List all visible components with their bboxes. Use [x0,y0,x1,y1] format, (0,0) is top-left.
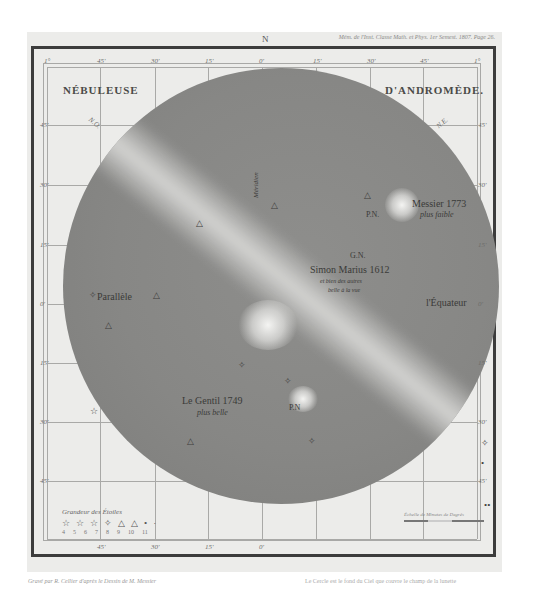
right-tick: 45' [478,121,487,129]
legend-symbol-icon: ☆ [62,518,70,528]
legend-title: Grandeur des Étoiles [62,508,156,516]
pn-upper-label: P.N. [366,210,379,219]
title-left: NÉBULEUSE [63,84,139,96]
bottom-tick: 15' [205,543,214,551]
star-icon: • [481,458,484,468]
right-tick: 45' [478,477,487,485]
scale-graduation [404,520,484,522]
left-tick: 30' [40,181,49,189]
star-icon: ✧ [284,376,292,386]
legend-symbol-icon: ☆ [76,518,84,528]
top-tick: 45' [97,57,106,65]
legend-symbol-icon: ✧ [104,518,112,528]
pn-lower-label: P.N [289,403,300,412]
left-tick: 30' [40,418,49,426]
grid-line-h [47,539,477,540]
bottom-tick: 45' [97,543,106,551]
star-icon: △ [196,218,203,228]
legend-magnitude: 7 [95,529,98,535]
top-tick: 30' [367,57,376,65]
right-tick: 0' [478,300,483,308]
grid-line-v [47,67,48,539]
messier-sub: plus faible [420,210,454,219]
star-icon: △ [271,200,278,210]
legend-magnitude: 6 [84,529,87,535]
header-note: Mém. de l'Inst. Classe Math. et Phys. 1e… [290,34,495,40]
simon-marius-label: Simon Marius 1612 [310,264,389,275]
legend-magnitude: 4 [62,529,65,535]
parallel-label: Parallèle [97,291,132,302]
top-tick: 15' [313,57,322,65]
circle-caption: Le Cercle est le fond du Ciel que couvre… [305,578,456,584]
left-tick: 15' [40,359,49,367]
title-right: D'ANDROMÈDE. [385,84,484,96]
bottom-tick: 0' [259,543,264,551]
left-tick: 45' [40,121,49,129]
messier-label: Messier 1773 [412,198,466,209]
star-icon: ☆ [90,406,98,416]
top-tick: 1° [44,57,50,65]
telescope-field-circle [63,68,499,504]
star-icon: △ [105,320,112,330]
star-icon: •• [484,500,490,510]
legend-magnitude: 10 [128,529,134,535]
legend-magnitude: 8 [106,529,109,535]
legend-symbol-icon: △ [118,518,125,528]
left-tick: 0' [40,300,45,308]
bottom-tick: 30' [151,543,160,551]
top-tick: 45' [420,57,429,65]
top-tick: 30' [151,57,160,65]
star-icon: ✧ [89,290,97,300]
engraver-credit: Gravé par R. Cellier d'après le Dessin d… [28,578,156,584]
left-tick: 15' [40,241,49,249]
legend-symbol-icon: • [144,518,147,528]
star-icon: ✧ [481,438,489,448]
nebula-core-glow [238,300,298,350]
legend-symbol-icon: ☆ [90,518,98,528]
legend-symbols: ☆ ☆ ☆ ✧ △ △ • · [62,518,156,528]
magnitude-legend: Grandeur des Étoiles ☆ ☆ ☆ ✧ △ △ • · 4 5… [62,508,156,535]
equator-label: l'Équateur [426,297,467,308]
legend-magnitude: 11 [142,529,148,535]
gn-label: G.N. [350,251,366,260]
star-icon: △ [364,190,371,200]
simon-sub1: et bien des autres [320,278,362,284]
north-marker: N [262,34,269,44]
legend-symbol-icon: △ [131,518,138,528]
top-tick: 15' [205,57,214,65]
right-tick: 15' [478,241,487,249]
star-icon: △ [153,290,160,300]
scale-bar: Échelle de Minutes de Degrés [404,512,484,522]
right-tick: 30' [478,181,487,189]
star-icon: ✧ [308,436,316,446]
top-tick: 0' [259,57,264,65]
legend-magnitude: 9 [117,529,120,535]
right-tick: 15' [478,359,487,367]
right-tick: 30' [478,418,487,426]
legend-magnitudes: 4 5 6 7 8 9 10 11 [62,529,156,535]
le-gentil-sub: plus belle [197,408,228,417]
meridian-label: Méridien [252,172,260,198]
legend-magnitude: 5 [73,529,76,535]
left-tick: 45' [40,477,49,485]
le-gentil-label: Le Gentil 1749 [182,395,243,406]
star-icon: ✧ [238,360,246,370]
simon-sub2: belle à la vue [328,287,360,293]
scale-title: Échelle de Minutes de Degrés [404,512,484,517]
legend-symbol-icon: · [153,518,156,528]
top-tick: 1° [474,57,480,65]
star-icon: △ [187,436,194,446]
